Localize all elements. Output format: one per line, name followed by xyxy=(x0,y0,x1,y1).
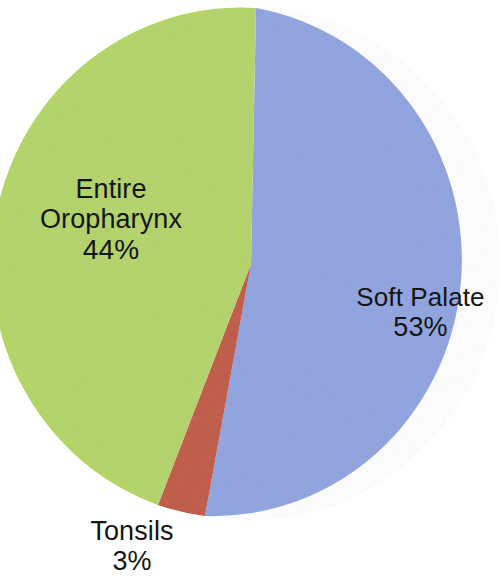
pie-chart: Entire Oropharynx 44% Soft Palate 53% To… xyxy=(0,0,503,582)
slice-label-entire-oropharynx-line2: Oropharynx xyxy=(6,204,216,234)
slice-label-entire-oropharynx-line1: Entire xyxy=(6,174,216,204)
slice-label-soft-palate: Soft Palate 53% xyxy=(338,283,503,342)
slice-value-entire-oropharynx: 44% xyxy=(6,234,216,265)
slice-label-entire-oropharynx: Entire Oropharynx 44% xyxy=(6,174,216,266)
slice-label-soft-palate-name: Soft Palate xyxy=(338,283,503,312)
slice-label-tonsils-name: Tonsils xyxy=(52,516,212,546)
slice-value-soft-palate: 53% xyxy=(338,312,503,342)
slice-label-tonsils: Tonsils 3% xyxy=(52,516,212,576)
slice-value-tonsils: 3% xyxy=(52,546,212,576)
